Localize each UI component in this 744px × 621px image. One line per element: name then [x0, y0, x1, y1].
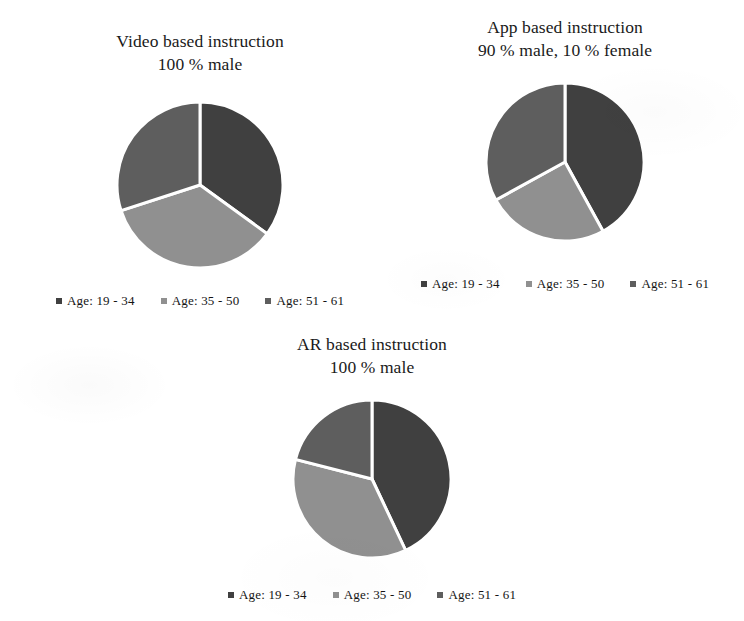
square-marker-icon: [630, 281, 636, 287]
legend-item-age-19-34[interactable]: Age: 19 - 34: [228, 587, 307, 603]
pie-chart-app[interactable]: [483, 80, 647, 244]
legend-item-age-19-34[interactable]: Age: 19 - 34: [421, 276, 500, 292]
pie-svg-video: [114, 99, 286, 271]
square-marker-icon: [421, 281, 427, 287]
pie-slices-app: [486, 83, 644, 241]
square-marker-icon: [437, 592, 443, 598]
square-marker-icon: [56, 298, 62, 304]
square-marker-icon: [526, 281, 532, 287]
pie-slices-video: [117, 102, 283, 268]
legend-item-age-19-34[interactable]: Age: 19 - 34: [56, 293, 135, 309]
chart-title-app: App based instruction 90 % male, 10 % fe…: [405, 16, 725, 62]
legend-item-age-35-50[interactable]: Age: 35 - 50: [161, 293, 240, 309]
pie-svg-ar: [290, 397, 454, 561]
square-marker-icon: [161, 298, 167, 304]
square-marker-icon: [228, 592, 234, 598]
legend-label-age-51-61: Age: 51 - 61: [641, 276, 709, 292]
chart-panel-app: App based instruction 90 % male, 10 % fe…: [405, 16, 725, 292]
legend-item-age-51-61[interactable]: Age: 51 - 61: [630, 276, 709, 292]
legend-item-age-51-61[interactable]: Age: 51 - 61: [265, 293, 344, 309]
square-marker-icon: [333, 592, 339, 598]
legend-label-age-51-61: Age: 51 - 61: [448, 587, 516, 603]
legend-item-age-35-50[interactable]: Age: 35 - 50: [333, 587, 412, 603]
legend-label-age-19-34: Age: 19 - 34: [432, 276, 500, 292]
legend-label-age-35-50: Age: 35 - 50: [537, 276, 605, 292]
legend-item-age-35-50[interactable]: Age: 35 - 50: [526, 276, 605, 292]
pie-slices-ar: [293, 400, 451, 558]
legend-label-age-35-50: Age: 35 - 50: [172, 293, 240, 309]
legend-video: Age: 19 - 34 Age: 35 - 50 Age: 51 - 61: [40, 293, 360, 309]
legend-label-age-51-61: Age: 51 - 61: [276, 293, 344, 309]
legend-label-age-35-50: Age: 35 - 50: [344, 587, 412, 603]
chart-panel-ar: AR based instruction 100 % male Age: 19 …: [212, 333, 532, 603]
legend-item-age-51-61[interactable]: Age: 51 - 61: [437, 587, 516, 603]
pie-svg-app: [483, 80, 647, 244]
chart-panel-video: Video based instruction 100 % male Age: …: [40, 30, 360, 309]
legend-label-age-19-34: Age: 19 - 34: [67, 293, 135, 309]
pie-chart-video[interactable]: [114, 99, 286, 271]
chart-title-video: Video based instruction 100 % male: [40, 30, 360, 76]
chart-title-ar: AR based instruction 100 % male: [212, 333, 532, 379]
square-marker-icon: [265, 298, 271, 304]
pie-chart-ar[interactable]: [290, 397, 454, 561]
legend-app: Age: 19 - 34 Age: 35 - 50 Age: 51 - 61: [405, 276, 725, 292]
legend-label-age-19-34: Age: 19 - 34: [239, 587, 307, 603]
legend-ar: Age: 19 - 34 Age: 35 - 50 Age: 51 - 61: [212, 587, 532, 603]
